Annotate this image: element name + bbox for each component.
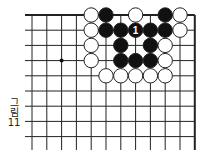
white-stone bbox=[158, 53, 172, 67]
figure-caption: 그 림 11 bbox=[7, 98, 21, 128]
white-stone bbox=[158, 69, 172, 83]
white-stone bbox=[84, 38, 98, 52]
black-stone bbox=[114, 38, 128, 52]
move-number-label: 1 bbox=[133, 25, 139, 36]
go-board-diagram: 1 bbox=[0, 0, 206, 156]
star-point bbox=[60, 59, 64, 63]
white-stone bbox=[99, 69, 113, 83]
white-stone bbox=[84, 8, 98, 22]
white-stone bbox=[84, 23, 98, 37]
white-stone bbox=[84, 53, 98, 67]
black-stone bbox=[114, 53, 128, 67]
white-stone bbox=[128, 69, 142, 83]
white-stone bbox=[143, 69, 157, 83]
black-stone bbox=[143, 53, 157, 67]
black-stone bbox=[99, 23, 113, 37]
white-stone bbox=[173, 8, 187, 22]
black-stone bbox=[158, 23, 172, 37]
black-stone bbox=[128, 53, 142, 67]
black-stone bbox=[114, 23, 128, 37]
black-stone bbox=[143, 38, 157, 52]
white-stone bbox=[173, 23, 187, 37]
white-stone bbox=[128, 8, 142, 22]
white-stone bbox=[158, 38, 172, 52]
black-stone bbox=[99, 8, 113, 22]
caption-line-3: 11 bbox=[7, 118, 21, 128]
black-stone bbox=[158, 8, 172, 22]
white-stone bbox=[114, 69, 128, 83]
black-stone bbox=[143, 23, 157, 37]
